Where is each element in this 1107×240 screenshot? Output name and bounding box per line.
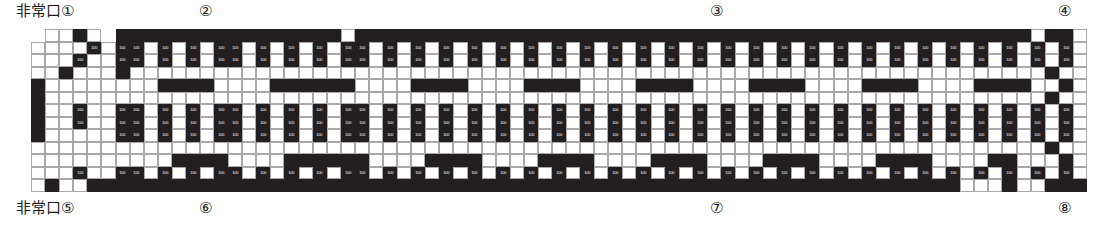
dimension-label: 100: [1035, 46, 1041, 50]
plan-cell: [425, 142, 439, 155]
plan-cell: 100: [116, 129, 130, 142]
plan-cell: [834, 142, 848, 155]
plan-cell: [59, 92, 73, 105]
plan-cell: [1031, 179, 1045, 192]
plan-cell: [876, 92, 890, 105]
plan-cell: [397, 67, 411, 80]
plan-cell: [1073, 29, 1087, 42]
dimension-label: 100: [697, 46, 703, 50]
plan-cell: [622, 67, 636, 80]
plan-cell: [270, 179, 284, 192]
plan-cell: [651, 104, 665, 117]
dimension-label: 100: [120, 46, 126, 50]
dimension-label: 100: [120, 133, 126, 137]
plan-cell: [17, 104, 31, 117]
plan-cell: [510, 79, 524, 92]
plan-cell: [763, 104, 777, 117]
plan-cell: [256, 29, 270, 42]
plan-cell: [73, 142, 87, 155]
plan-cell: 100: [341, 42, 355, 55]
plan-cell: 100: [974, 129, 988, 142]
plan-cell: [411, 79, 425, 92]
plan-cell: [383, 92, 397, 105]
plan-cell: [538, 54, 552, 67]
dimension-label: 100: [77, 171, 83, 175]
dimension-label: 100: [443, 121, 449, 125]
plan-cell: 100: [834, 42, 848, 55]
plan-cell: [552, 79, 566, 92]
dimension-label: 100: [669, 108, 675, 112]
plan-cell: [862, 179, 876, 192]
dimension-label: 100: [218, 46, 224, 50]
plan-cell: [242, 142, 256, 155]
plan-cell: 100: [228, 167, 242, 180]
emergency-exit-8-label: ⑧: [1058, 200, 1071, 215]
plan-cell: [284, 79, 298, 92]
plan-cell: 100: [284, 117, 298, 130]
plan-cell: [242, 79, 256, 92]
dimension-label: 100: [500, 133, 506, 137]
plan-cell: [791, 142, 805, 155]
plan-cell: [622, 104, 636, 117]
plan-cell: 100: [946, 42, 960, 55]
plan-cell: [172, 42, 186, 55]
plan-cell: [510, 92, 524, 105]
plan-cell: [819, 79, 833, 92]
plan-cell: [946, 142, 960, 155]
plan-cell: 100: [1002, 167, 1016, 180]
plan-cell: [946, 79, 960, 92]
plan-cell: 100: [749, 117, 763, 130]
plan-cell: [17, 167, 31, 180]
dimension-label: 100: [528, 108, 534, 112]
plan-cell: [101, 154, 115, 167]
plan-cell: [87, 117, 101, 130]
plan-cell: [200, 79, 214, 92]
plan-cell: [256, 67, 270, 80]
plan-cell: 100: [749, 129, 763, 142]
dimension-label: 100: [317, 108, 323, 112]
plan-cell: 100: [608, 129, 622, 142]
plan-cell: [904, 42, 918, 55]
dimension-label: 100: [950, 171, 956, 175]
plan-cell: [763, 117, 777, 130]
plan-cell: [566, 104, 580, 117]
plan-cell: [904, 117, 918, 130]
plan-cell: [59, 154, 73, 167]
plan-cell: 100: [439, 117, 453, 130]
plan-cell: [679, 129, 693, 142]
dimension-label: 100: [345, 58, 351, 62]
plan-cell: [665, 179, 679, 192]
plan-cell: [411, 92, 425, 105]
plan-cell: [876, 104, 890, 117]
plan-cell: [214, 142, 228, 155]
dimension-label: 100: [218, 58, 224, 62]
plan-cell: [763, 42, 777, 55]
plan-cell: [214, 79, 228, 92]
dimension-label: 100: [922, 108, 928, 112]
dimension-label: 100: [317, 46, 323, 50]
dimension-label: 100: [669, 58, 675, 62]
dimension-label: 100: [556, 121, 562, 125]
plan-cell: [608, 67, 622, 80]
plan-cell: [101, 104, 115, 117]
plan-cell: 100: [777, 117, 791, 130]
plan-cell: 100: [1031, 167, 1045, 180]
dimension-label: 100: [697, 108, 703, 112]
plan-cell: [791, 167, 805, 180]
plan-cell: [73, 29, 87, 42]
dimension-label: 100: [725, 121, 731, 125]
plan-cell: [636, 29, 650, 42]
plan-cell: 100: [974, 117, 988, 130]
plan-cell: 100: [313, 129, 327, 142]
plan-cell: [735, 67, 749, 80]
plan-cell: [355, 142, 369, 155]
plan-cell: [130, 142, 144, 155]
plan-cell: [453, 179, 467, 192]
dimension-label: 100: [260, 121, 266, 125]
plan-cell: 100: [73, 54, 87, 67]
plan-cell: [144, 92, 158, 105]
plan-cell: [524, 179, 538, 192]
plan-cell: 100: [693, 42, 707, 55]
plan-cell: [777, 67, 791, 80]
plan-cell: [425, 54, 439, 67]
